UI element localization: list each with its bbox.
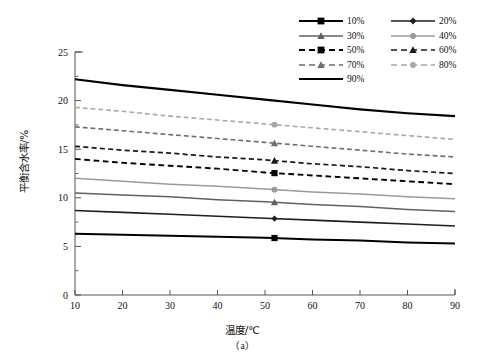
legend-sample-icon (390, 15, 436, 27)
y-tick-label: 20 (58, 95, 68, 106)
axis-frame (75, 52, 455, 295)
legend-label: 70% (347, 58, 364, 73)
legend-sample-icon (298, 59, 344, 71)
series-20pct (75, 210, 455, 226)
figure-subcaption: （a） (0, 338, 485, 352)
legend-item-10pct[interactable]: 10% (298, 14, 390, 29)
legend-item-70pct[interactable]: 70% (298, 58, 390, 73)
legend-sample-icon (390, 44, 436, 56)
legend-item-60pct[interactable]: 60% (390, 43, 480, 58)
legend-sample-icon (298, 73, 344, 85)
legend-swatch (390, 44, 436, 56)
legend-item-80pct[interactable]: 80% (390, 58, 480, 73)
y-tick-label: 25 (58, 47, 68, 58)
x-tick-label: 80 (403, 300, 413, 311)
series-60pct (75, 146, 455, 173)
legend-item-20pct[interactable]: 20% (390, 14, 480, 29)
legend-label: 80% (439, 58, 456, 73)
legend-label: 50% (347, 43, 364, 58)
legend-item-50pct[interactable]: 50% (298, 43, 390, 58)
y-tick-label: 0 (63, 290, 68, 301)
series-marker (272, 187, 278, 193)
legend-label: 10% (347, 14, 364, 29)
x-tick-label: 60 (308, 300, 318, 311)
x-tick-label: 50 (260, 300, 270, 311)
legend-sample-icon (390, 30, 436, 42)
y-tick-label: 10 (58, 192, 68, 203)
legend-swatch (298, 73, 344, 85)
series-70pct (75, 127, 455, 157)
chart-legend: 10%20%30%40%50%60%70%80%90% (298, 14, 480, 87)
y-axis-title: 平衡含水率/% (16, 92, 31, 232)
legend-item-40pct[interactable]: 40% (390, 29, 480, 44)
legend-label: 90% (347, 72, 364, 87)
legend-label: 30% (347, 29, 364, 44)
series-10pct (75, 234, 455, 244)
legend-swatch (298, 30, 344, 42)
series-50pct (75, 159, 455, 184)
x-tick-label: 10 (70, 300, 80, 311)
legend-sample-icon (298, 30, 344, 42)
legend-label: 60% (439, 43, 456, 58)
legend-sample-icon (390, 59, 436, 71)
legend-label: 20% (439, 14, 456, 29)
x-tick-label: 30 (165, 300, 175, 311)
y-tick-label: 15 (58, 144, 68, 155)
series-marker (271, 235, 277, 241)
series-marker (271, 216, 277, 222)
x-axis-title: 温度/℃ (0, 322, 485, 337)
series-line (75, 127, 455, 157)
legend-swatch (298, 15, 344, 27)
figure-container: 0510152025102030405060708090 10%20%30%40… (0, 0, 485, 358)
x-tick-label: 70 (355, 300, 365, 311)
series-marker (271, 170, 277, 176)
legend-swatch (390, 15, 436, 27)
series-line (75, 146, 455, 173)
x-tick-label: 90 (450, 300, 460, 311)
legend-sample-icon (298, 44, 344, 56)
legend-swatch (390, 59, 436, 71)
legend-swatch (298, 59, 344, 71)
series-line (75, 210, 455, 226)
series-marker (272, 122, 278, 128)
legend-swatch (390, 30, 436, 42)
y-tick-label: 5 (63, 241, 68, 252)
x-tick-label: 20 (118, 300, 128, 311)
series-line (75, 159, 455, 184)
legend-item-30pct[interactable]: 30% (298, 29, 390, 44)
legend-item-90pct[interactable]: 90% (298, 72, 390, 87)
legend-sample-icon (298, 15, 344, 27)
series-line (75, 234, 455, 244)
legend-label: 40% (439, 29, 456, 44)
legend-swatch (298, 44, 344, 56)
x-tick-label: 40 (213, 300, 223, 311)
